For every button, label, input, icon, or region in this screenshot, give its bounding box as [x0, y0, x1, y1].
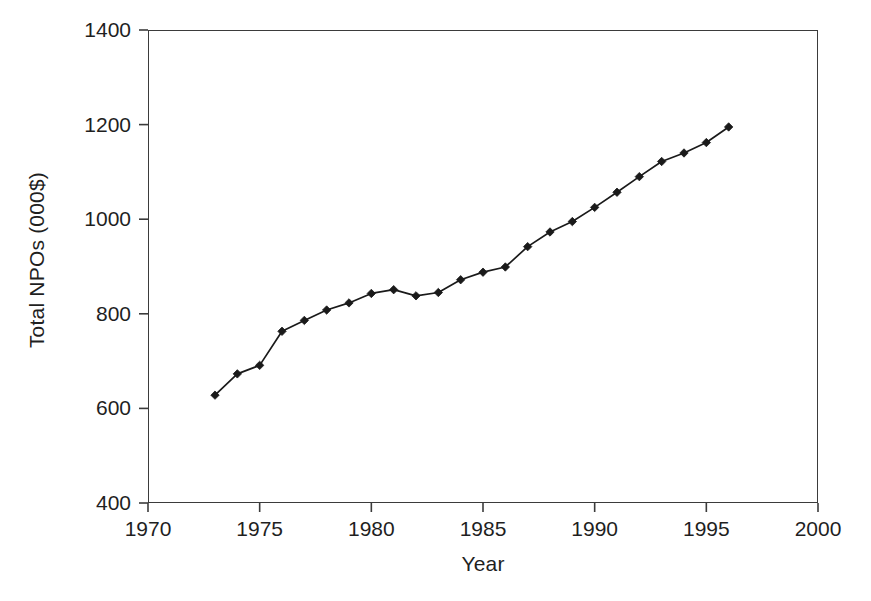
y-tick-label: 400 [43, 492, 131, 513]
y-axis-title: Total NPOs (000$) [14, 0, 60, 520]
y-tick-label: 1000 [43, 208, 131, 229]
x-tick-label: 1985 [438, 518, 528, 539]
x-tick-label: 2000 [773, 518, 863, 539]
y-axis-ticks [139, 30, 148, 503]
y-tick-label: 600 [43, 397, 131, 418]
x-tick-label: 1995 [661, 518, 751, 539]
x-axis-title: Year [148, 552, 818, 576]
x-tick-label: 1990 [550, 518, 640, 539]
x-tick-label: 1980 [326, 518, 416, 539]
chart-figure: Total NPOs (000$) 400600800100012001400 … [0, 0, 871, 601]
x-tick-label: 1975 [215, 518, 305, 539]
x-tick-label: 1970 [103, 518, 193, 539]
y-tick-label: 1200 [43, 114, 131, 135]
plot-area [148, 30, 818, 503]
y-tick-label: 1400 [43, 19, 131, 40]
x-axis-ticks [148, 503, 818, 512]
y-tick-label: 800 [43, 303, 131, 324]
